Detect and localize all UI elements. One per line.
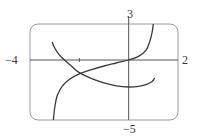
x-max-label: 2 [182, 54, 188, 66]
increasing-curve [53, 24, 153, 120]
y-min-label: −5 [123, 123, 136, 135]
plot-area [0, 0, 197, 140]
viewing-window-frame [30, 24, 178, 120]
y-max-label: 3 [127, 8, 133, 20]
x-min-label: −4 [5, 54, 18, 66]
